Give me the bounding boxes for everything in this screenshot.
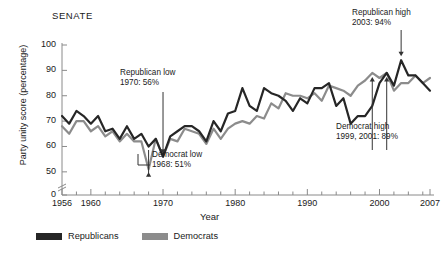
legend-label: Republicans bbox=[68, 231, 119, 241]
chart-legend: RepublicansDemocrats bbox=[36, 231, 232, 241]
legend-label: Democrats bbox=[174, 231, 218, 241]
annotation-title: Republican low bbox=[120, 68, 176, 78]
legend-swatch-icon bbox=[142, 233, 168, 240]
y-tick-label: 90 bbox=[30, 64, 56, 74]
annotation-republican-low: Republican low1970: 56% bbox=[120, 68, 176, 88]
legend-item-democrats[interactable]: Democrats bbox=[142, 231, 218, 241]
annotation-detail: 2003: 94% bbox=[352, 18, 411, 28]
annotation-detail: 1970: 56% bbox=[120, 78, 176, 88]
annotation-democrat-low: Democrat low1968: 51% bbox=[152, 150, 202, 170]
y-tick-label: 70 bbox=[30, 115, 56, 125]
y-tick-label: 100 bbox=[30, 39, 56, 49]
annotation-detail: 1968: 51% bbox=[152, 160, 202, 170]
annotation-republican-high: Republican high2003: 94% bbox=[352, 8, 411, 28]
annotation-title: Democrat low bbox=[152, 150, 202, 160]
legend-item-republicans[interactable]: Republicans bbox=[36, 231, 119, 241]
chart-container: SENATE Party unity score (percentage) Ye… bbox=[0, 0, 444, 258]
x-tick-label: 2000 bbox=[359, 198, 399, 208]
annotation-title: Republican high bbox=[352, 8, 411, 18]
annotation-title: Democrat high bbox=[336, 122, 398, 132]
x-tick-label: 1990 bbox=[287, 198, 327, 208]
annotation-democrat-high: Democrat high1999, 2001: 89% bbox=[336, 122, 398, 142]
legend-swatch-icon bbox=[36, 233, 62, 240]
y-tick-label: 50 bbox=[30, 166, 56, 176]
x-tick-label: 1960 bbox=[71, 198, 111, 208]
x-tick-label: 1970 bbox=[143, 198, 183, 208]
y-tick-label: 80 bbox=[30, 90, 56, 100]
x-tick-label: 2007 bbox=[410, 198, 444, 208]
annotation-detail: 1999, 2001: 89% bbox=[336, 132, 398, 142]
y-tick-label: 60 bbox=[30, 140, 56, 150]
x-tick-label: 1980 bbox=[215, 198, 255, 208]
